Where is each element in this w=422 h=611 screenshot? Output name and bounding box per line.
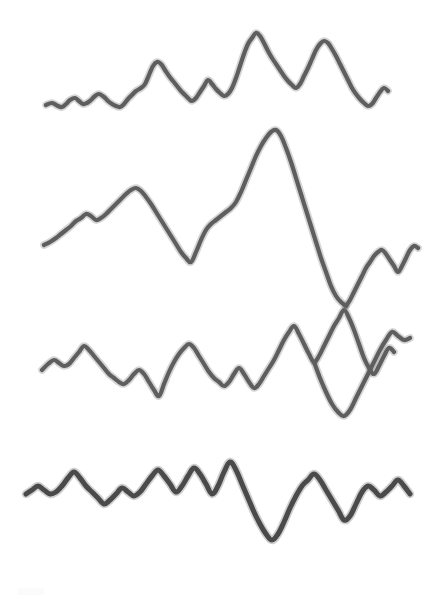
waveform-halo-layer	[26, 33, 418, 540]
waveform-trace-group	[0, 0, 422, 611]
waveform-trace-6	[26, 462, 410, 540]
waveform-trace-1	[46, 33, 388, 107]
waveform-canvas	[0, 0, 422, 611]
paper-smudge-mark	[18, 588, 44, 595]
waveform-halo-2	[44, 130, 346, 306]
waveform-halo-6	[26, 462, 410, 540]
